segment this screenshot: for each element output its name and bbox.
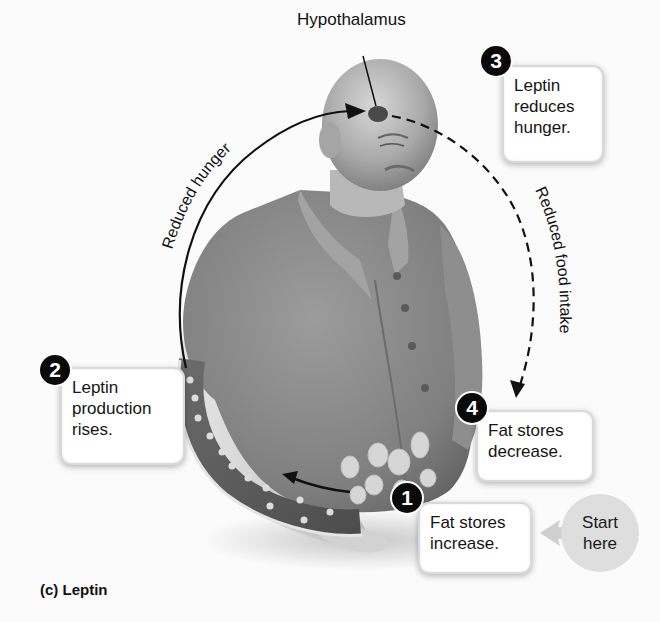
- reduced-food-intake-label: Reduced food intake: [532, 184, 574, 334]
- step-2-text-line: Leptin: [72, 377, 173, 398]
- step-1-badge: 1: [392, 483, 422, 513]
- step-2-box: Leptin production rises.: [62, 369, 183, 463]
- start-here-line: Start: [582, 512, 618, 533]
- step-2-text-line: rises.: [72, 419, 173, 440]
- step-4-text-line: decrease.: [488, 441, 582, 462]
- step-2-badge: 2: [40, 355, 70, 385]
- step-4-text-line: Fat stores: [488, 420, 582, 441]
- step-3-badge: 3: [481, 46, 511, 76]
- step-2-text-line: production: [72, 398, 173, 419]
- step-1-text-line: Fat stores: [430, 512, 520, 533]
- ear: [319, 122, 341, 158]
- figure-caption: (c) Leptin: [40, 581, 108, 598]
- step-1-box: Fat stores increase.: [420, 504, 530, 572]
- step-3-box: Leptin reduces hunger.: [504, 67, 602, 161]
- reduced-food-intake-arrowhead: [510, 380, 525, 398]
- leptin-diagram: Reduced hunger Reduced food intake Hypot…: [0, 0, 660, 622]
- start-here-line: here: [583, 533, 617, 554]
- step-1-text-line: increase.: [430, 533, 520, 554]
- step-4-box: Fat stores decrease.: [478, 412, 592, 480]
- step-4-badge: 4: [457, 393, 487, 423]
- step-3-text-line: Leptin: [514, 75, 592, 96]
- hypothalamus-spot: [368, 106, 388, 122]
- start-here-marker: Start here: [561, 494, 639, 572]
- hypothalamus-label: Hypothalamus: [297, 10, 406, 30]
- step-3-text-line: reduces: [514, 96, 592, 117]
- step-3-text-line: hunger.: [514, 117, 592, 138]
